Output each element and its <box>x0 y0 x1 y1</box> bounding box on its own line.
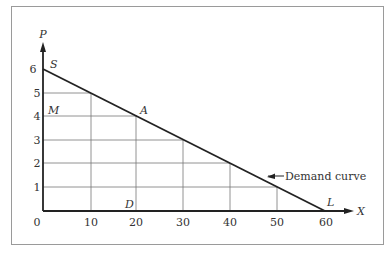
grid-lines <box>43 93 277 211</box>
x-tick-60: 60 <box>319 216 333 229</box>
y-axis-label: P <box>38 28 47 41</box>
demand-curve-label: Demand curve <box>285 170 366 183</box>
y-axis-arrow-icon <box>40 42 46 52</box>
x-tick-10: 10 <box>84 216 98 229</box>
x-tick-40: 40 <box>223 216 237 229</box>
point-l-label: L <box>326 196 334 209</box>
point-m-label: M <box>47 104 60 117</box>
x-tick-30: 30 <box>176 216 190 229</box>
y-tick-6: 6 <box>30 63 37 76</box>
x-tick-0: 0 <box>34 216 41 229</box>
x-axis-arrow-icon <box>344 208 354 214</box>
x-axis-label: X <box>356 205 366 218</box>
x-tick-20: 20 <box>129 216 143 229</box>
y-tick-3: 3 <box>34 134 41 147</box>
y-tick-1: 1 <box>34 181 41 194</box>
x-tick-50: 50 <box>270 216 284 229</box>
point-a-label: A <box>139 104 148 117</box>
point-s-label: S <box>50 58 58 71</box>
point-d-label: D <box>124 198 134 211</box>
demand-chart: 6 5 4 3 2 1 0 10 20 30 40 50 60 P X S M … <box>0 0 390 253</box>
y-tick-4: 4 <box>34 110 41 123</box>
y-tick-2: 2 <box>34 157 41 170</box>
y-tick-5: 5 <box>34 87 41 100</box>
